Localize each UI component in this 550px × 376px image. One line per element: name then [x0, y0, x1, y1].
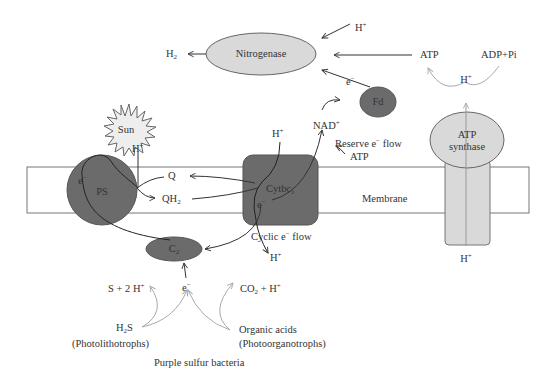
qh-text: QH [162, 193, 177, 204]
c2-sub: 2 [176, 248, 180, 256]
minus-sup: − [262, 198, 266, 206]
minus-sup: − [187, 281, 191, 289]
atp-synthase-label-1: ATP [458, 129, 477, 141]
h-text: + H [258, 283, 277, 294]
nad-plus-label: NAD+ [313, 117, 340, 132]
plus-sup: + [336, 119, 340, 127]
nad-text: NAD [313, 120, 336, 131]
nad-to-fd-arrow [322, 100, 340, 110]
adp-pi-label: ADP+Pi [481, 49, 517, 61]
h-text: H [116, 322, 124, 333]
co2-h-label: CO2 + H+ [240, 280, 281, 298]
e-minus-fd-label: e− [346, 73, 355, 88]
plus-sup: + [363, 21, 367, 29]
co-text: CO [240, 283, 255, 294]
q-label: Q [168, 170, 176, 182]
plus-sup: + [468, 252, 472, 260]
sub-2: 2 [177, 198, 181, 206]
atp-synthase-stalk [445, 160, 490, 245]
plus-sup: + [140, 142, 144, 150]
h2s-to-e-arrow [142, 290, 187, 327]
h-plus-cyt-label: H+ [272, 125, 284, 140]
nitrogenase-label: Nitrogenase [236, 48, 287, 60]
flow-text: flow [380, 138, 402, 149]
minus-sup: − [351, 75, 355, 83]
s-2h-text: S + 2 H [108, 283, 140, 294]
h-text: H [460, 74, 468, 85]
plus-sup: + [280, 127, 284, 135]
h-text: H [460, 253, 468, 264]
e-to-c2-arrow [184, 263, 186, 278]
plus-sup: + [468, 73, 472, 81]
organic-acids-label: Organic acids [239, 324, 297, 336]
h-plus-ps-label: H+ [132, 140, 144, 155]
h-text: H [132, 143, 140, 154]
membrane-label: Membrane [362, 193, 407, 205]
h-text: H [272, 128, 280, 139]
photoorganotrophs-label: (Photoorganotrophs) [239, 338, 326, 350]
minus-sup: − [83, 174, 87, 182]
sun-label: Sun [118, 124, 134, 136]
h-plus-to-nitrogenase-arrow [322, 24, 350, 38]
h-text: H [270, 252, 278, 263]
h2-label: H2 [166, 48, 177, 63]
h-text: H [355, 22, 363, 33]
cyclic-text: Cyclic e [251, 231, 286, 242]
h-plus-top-label: H+ [355, 19, 367, 34]
cytbc1-label: Cytbc1 [266, 183, 295, 198]
h-plus-cyt-out-label: H+ [270, 249, 282, 264]
c2-text: C [169, 243, 176, 254]
cyclic-flow-label: Cyclic e− flow [251, 228, 312, 243]
e-minus-c2-label: e− [182, 279, 191, 294]
diagram-title: Purple sulfur bacteria [154, 357, 244, 369]
atp-top-label: ATP [420, 49, 439, 61]
flow-text: flow [290, 231, 312, 242]
atp-reserve-label: ATP [350, 151, 369, 163]
h-text: H [166, 48, 174, 59]
ps-label: PS [96, 186, 108, 198]
organic-to-co2-arrow [220, 283, 233, 330]
s-text: S [127, 322, 133, 333]
photolithotrophs-label: (Photolithotrophs) [72, 338, 149, 350]
sub-2: 2 [174, 53, 178, 61]
fd-label: Fd [372, 96, 383, 108]
c2-label: C2 [169, 243, 180, 258]
reverse-text: Reserve e [335, 138, 376, 149]
cytbc1-sub: 1 [291, 188, 295, 196]
h2s-label: H2S [116, 322, 133, 337]
qh2-label: QH2 [162, 193, 181, 208]
plus-sup: + [277, 282, 281, 290]
reverse-flow-label: Reserve e− flow [335, 135, 402, 150]
atp-synthase-label-2: synthase [449, 141, 485, 153]
h-plus-atp-bottom-label: H+ [460, 250, 472, 265]
s-2h-label: S + 2 H+ [108, 280, 144, 295]
e-minus-ps-label: e− [78, 172, 87, 187]
h-plus-atp-arc-label: H+ [460, 71, 472, 86]
e-minus-cyt-label: e− [257, 196, 266, 211]
plus-sup: + [140, 282, 144, 290]
plus-sup: + [278, 251, 282, 259]
cytbc1-text: Cytbc [266, 183, 291, 194]
